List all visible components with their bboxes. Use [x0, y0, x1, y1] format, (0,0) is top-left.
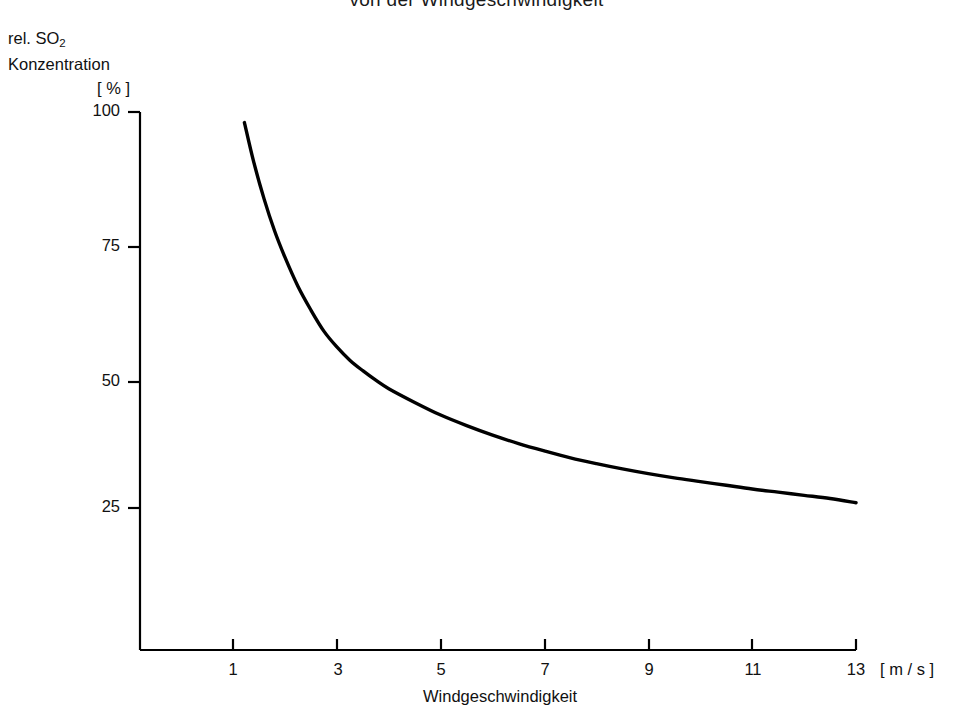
- chart-figure: von der Windgeschwindigkeit rel. SO2 Kon…: [0, 0, 953, 716]
- axes-group: [128, 112, 856, 650]
- data-series-line: [244, 123, 856, 503]
- plot-area: [0, 0, 953, 716]
